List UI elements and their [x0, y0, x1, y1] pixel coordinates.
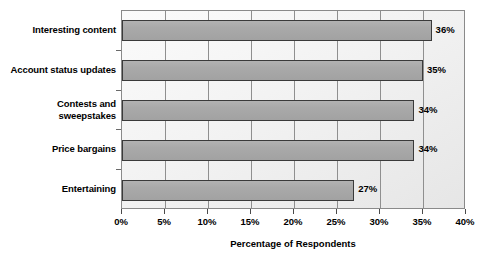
x-axis-tick	[293, 209, 294, 214]
bar	[122, 180, 354, 201]
x-axis-title: Percentage of Respondents	[121, 238, 465, 249]
x-axis-tick-label: 40%	[445, 216, 485, 228]
x-axis-tick	[336, 209, 337, 214]
x-axis-tick-label: 30%	[359, 216, 399, 228]
x-axis-tick	[164, 209, 165, 214]
x-axis-tick-label: 25%	[316, 216, 356, 228]
x-axis-tick-label: 5%	[144, 216, 184, 228]
x-axis-tick	[379, 209, 380, 214]
category-label: Interesting content	[0, 24, 116, 36]
bar-value-label: 35%	[427, 64, 446, 75]
x-axis-tick-label: 10%	[187, 216, 227, 228]
bar-value-label: 34%	[418, 143, 437, 154]
bar-value-label: 34%	[418, 104, 437, 115]
bar-value-label: 36%	[436, 24, 455, 35]
x-axis-tick-label: 0%	[101, 216, 141, 228]
category-axis: Interesting contentAccount status update…	[0, 10, 116, 209]
x-axis-tick-label: 15%	[230, 216, 270, 228]
x-axis-tick-label: 35%	[402, 216, 442, 228]
category-axis-tick	[116, 90, 121, 91]
bar-chart: Interesting contentAccount status update…	[0, 0, 496, 272]
bar	[122, 60, 423, 81]
x-axis-tick	[422, 209, 423, 214]
category-axis-tick	[116, 129, 121, 130]
x-axis-tick	[465, 209, 466, 214]
category-label: Entertaining	[0, 183, 116, 195]
bar	[122, 20, 432, 41]
bar	[122, 140, 414, 161]
category-label: Account status updates	[0, 64, 116, 76]
category-axis-tick	[116, 169, 121, 170]
category-axis-tick	[116, 50, 121, 51]
bar	[122, 100, 414, 121]
category-label: Contests and sweepstakes	[0, 98, 116, 121]
x-axis-tick	[207, 209, 208, 214]
bar-value-label: 27%	[358, 183, 377, 194]
category-label: Price bargains	[0, 143, 116, 155]
x-axis-tick-label: 20%	[273, 216, 313, 228]
x-axis-tick	[121, 209, 122, 214]
plot-area	[121, 10, 465, 209]
x-axis-tick	[250, 209, 251, 214]
